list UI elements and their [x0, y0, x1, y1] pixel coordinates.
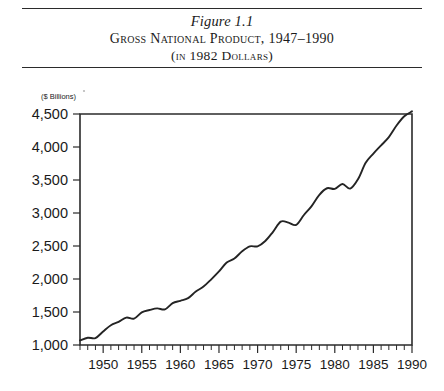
x-axis-tick-marks — [80, 345, 412, 353]
x-axis-tick-label: 1950 — [88, 357, 118, 372]
x-axis-tick-label: 1980 — [320, 357, 350, 372]
figure-title-block: Figure 1.1 Gross National Product, 1947–… — [22, 8, 422, 68]
figure-container: Figure 1.1 Gross National Product, 1947–… — [0, 0, 444, 391]
y-axis-tick-label: 1,500 — [32, 304, 68, 320]
chart-area: ($ Billions) 4,5004,0003,5003,0002,5002,… — [0, 86, 444, 386]
x-axis-tick-labels: 195019551960196519701975198019851990 — [88, 357, 427, 372]
figure-number: Figure 1.1 — [22, 13, 422, 30]
y-axis-tick-label: 2,000 — [32, 271, 68, 287]
gnp-line-chart: ($ Billions) 4,5004,0003,5003,0002,5002,… — [0, 86, 444, 386]
title-rule-top — [22, 8, 422, 9]
x-axis-tick-label: 1990 — [397, 357, 427, 372]
y-axis-tick-labels: 4,5004,0003,5003,0002,5002,0001,5001,000 — [32, 106, 68, 353]
y-axis-tick-marks — [73, 114, 80, 345]
x-axis-tick-label: 1960 — [165, 357, 195, 372]
title-rule-bottom — [22, 67, 422, 68]
y-axis-tick-label: 3,000 — [32, 205, 68, 221]
x-axis-tick-label: 1985 — [358, 357, 388, 372]
x-axis-tick-label: 1970 — [243, 357, 273, 372]
y-axis-tick-label: 2,500 — [32, 238, 68, 254]
y-axis-tick-label: 1,000 — [32, 337, 68, 353]
x-axis-tick-label: 1955 — [127, 357, 157, 372]
y-axis-tick-label: 3,500 — [32, 172, 68, 188]
gnp-data-line — [80, 111, 412, 340]
y-axis-unit-label: ($ Billions) — [41, 92, 77, 101]
figure-subtitle: (in 1982 Dollars) — [22, 47, 422, 64]
figure-title: Gross National Product, 1947–1990 — [22, 30, 422, 47]
y-axis-tick-label: 4,500 — [32, 106, 68, 122]
page-speck — [83, 90, 85, 92]
x-axis-tick-label: 1975 — [281, 357, 311, 372]
y-axis-tick-label: 4,000 — [32, 139, 68, 155]
x-axis-tick-label: 1965 — [204, 357, 234, 372]
plot-frame — [80, 114, 412, 345]
